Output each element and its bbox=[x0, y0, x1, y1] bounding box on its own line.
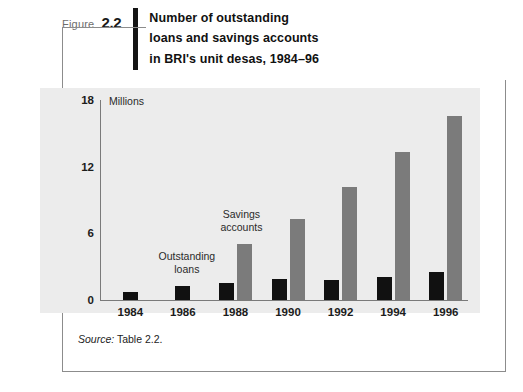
figure-header: Figure 2.2 Number of outstanding loans a… bbox=[62, 8, 319, 70]
x-tick-label-1988: 1988 bbox=[223, 306, 249, 318]
x-tick-label-1984: 1984 bbox=[117, 306, 143, 318]
plot-region: Millions 061218 198419861988199019921994… bbox=[100, 100, 468, 300]
y-axis-unit-label: Millions bbox=[109, 95, 144, 107]
bar-savings-accounts-1994 bbox=[395, 152, 410, 300]
bar-outstanding-loans-1992 bbox=[324, 280, 339, 300]
bar-outstanding-loans-1990 bbox=[272, 279, 287, 300]
x-tick-label-1990: 1990 bbox=[275, 306, 301, 318]
annotation-savings-accounts: Savings accounts bbox=[220, 208, 262, 234]
figure-accent-bar bbox=[133, 8, 138, 70]
y-tick-label-6: 6 bbox=[88, 227, 94, 239]
panel-bottom-border bbox=[62, 371, 506, 372]
figure-header-rule bbox=[62, 27, 146, 28]
figure-number: 2.2 bbox=[101, 14, 121, 31]
y-axis-line bbox=[100, 100, 101, 300]
y-tick-label-12: 12 bbox=[81, 161, 94, 173]
source-prefix: Source: bbox=[78, 333, 114, 345]
bar-outstanding-loans-1986 bbox=[175, 286, 190, 300]
bar-outstanding-loans-1994 bbox=[377, 277, 392, 300]
y-tick-label-18: 18 bbox=[81, 94, 94, 106]
annotation-outstanding-loans: Outstanding loans bbox=[159, 250, 216, 276]
source-note: Source: Table 2.2. bbox=[78, 333, 162, 345]
panel-right-border bbox=[505, 80, 506, 372]
y-tick-label-0: 0 bbox=[88, 294, 94, 306]
figure-page: Figure 2.2 Number of outstanding loans a… bbox=[0, 0, 523, 392]
source-text: Table 2.2. bbox=[117, 333, 163, 345]
bar-outstanding-loans-1996 bbox=[429, 272, 444, 300]
bar-savings-accounts-1992 bbox=[342, 187, 357, 300]
chart-area: Millions 061218 198419861988199019921994… bbox=[40, 88, 480, 313]
x-tick-label-1994: 1994 bbox=[380, 306, 406, 318]
x-tick-label-1986: 1986 bbox=[170, 306, 196, 318]
bar-outstanding-loans-1984 bbox=[123, 292, 138, 300]
x-tick-label-1992: 1992 bbox=[328, 306, 354, 318]
figure-word: Figure bbox=[62, 18, 94, 30]
bar-outstanding-loans-1988 bbox=[219, 283, 234, 300]
x-axis-line bbox=[100, 300, 468, 301]
x-tick-label-1996: 1996 bbox=[433, 306, 459, 318]
figure-title: Number of outstanding loans and savings … bbox=[149, 8, 319, 69]
bar-savings-accounts-1996 bbox=[447, 116, 462, 300]
bar-savings-accounts-1988 bbox=[237, 244, 252, 300]
bar-savings-accounts-1990 bbox=[290, 219, 305, 300]
